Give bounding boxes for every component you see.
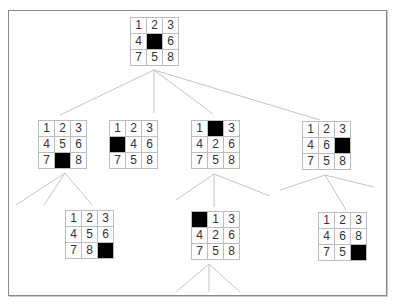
tile: 4 — [319, 229, 335, 245]
tile: 1 — [319, 213, 335, 229]
tile: 4 — [192, 137, 208, 153]
tile: 4 — [131, 34, 147, 50]
edge-c4-g4 — [325, 175, 346, 210]
tile: 7 — [110, 153, 126, 169]
edge-c3-c — [214, 174, 270, 196]
tile: 6 — [224, 228, 240, 244]
tile: 6 — [142, 137, 158, 153]
edge-c3-a — [176, 174, 214, 200]
tile: 8 — [224, 153, 240, 169]
tile: 2 — [208, 137, 224, 153]
tile: 5 — [208, 244, 224, 260]
puzzle-child-1: 12345678 — [38, 120, 87, 169]
tile: 8 — [335, 154, 351, 170]
tile: 1 — [208, 212, 224, 228]
tile: 2 — [82, 211, 98, 227]
tile: 3 — [98, 211, 114, 227]
tile: 7 — [39, 153, 55, 169]
tile: 5 — [335, 245, 351, 261]
puzzle-child-3: 13426758 — [191, 120, 240, 169]
tile: 5 — [55, 137, 71, 153]
tile: 4 — [303, 138, 319, 154]
blank-tile — [192, 212, 208, 228]
blank-tile — [147, 34, 163, 50]
edge-g3-a — [176, 264, 209, 292]
puzzle-grandchild-1: 12345678 — [65, 210, 114, 259]
tile: 6 — [98, 227, 114, 243]
tile: 8 — [163, 50, 179, 66]
tile: 2 — [335, 213, 351, 229]
tile: 4 — [39, 137, 55, 153]
edge-c1-a — [16, 173, 65, 205]
tile: 1 — [66, 211, 82, 227]
tile: 7 — [66, 243, 82, 259]
tile: 7 — [319, 245, 335, 261]
edge-c1-g1 — [65, 173, 92, 205]
edge-c4-c — [325, 175, 374, 187]
tile: 6 — [71, 137, 87, 153]
tile: 6 — [319, 138, 335, 154]
blank-tile — [110, 137, 126, 153]
tile: 7 — [131, 50, 147, 66]
puzzle-grandchild-3: 13426758 — [191, 211, 240, 260]
puzzle-child-4: 12346758 — [302, 121, 351, 170]
edge-root-c1 — [60, 70, 154, 115]
edge-c4-a — [280, 175, 325, 190]
puzzle-child-2: 12346758 — [109, 120, 158, 169]
tile: 5 — [208, 153, 224, 169]
tile: 5 — [82, 227, 98, 243]
edge-c1-b — [44, 173, 65, 205]
tile: 2 — [319, 122, 335, 138]
tile: 2 — [147, 18, 163, 34]
edge-g3-c — [209, 264, 240, 292]
tile: 6 — [224, 137, 240, 153]
tile: 8 — [351, 229, 367, 245]
tile: 4 — [192, 228, 208, 244]
tile: 8 — [224, 244, 240, 260]
tile: 2 — [126, 121, 142, 137]
edge-root-c3 — [154, 70, 213, 114]
tile: 3 — [71, 121, 87, 137]
tile: 7 — [192, 244, 208, 260]
tile: 3 — [224, 121, 240, 137]
tile: 3 — [335, 122, 351, 138]
tile: 1 — [110, 121, 126, 137]
tile: 3 — [351, 213, 367, 229]
puzzle-root: 12346758 — [130, 17, 179, 66]
tile: 3 — [142, 121, 158, 137]
tile: 6 — [335, 229, 351, 245]
tile: 8 — [71, 153, 87, 169]
blank-tile — [55, 153, 71, 169]
tile: 1 — [303, 122, 319, 138]
blank-tile — [351, 245, 367, 261]
tile: 6 — [163, 34, 179, 50]
tile: 3 — [163, 18, 179, 34]
tile: 4 — [66, 227, 82, 243]
blank-tile — [98, 243, 114, 259]
tile: 5 — [147, 50, 163, 66]
tile: 8 — [142, 153, 158, 169]
tile: 5 — [126, 153, 142, 169]
blank-tile — [335, 138, 351, 154]
tile: 7 — [192, 153, 208, 169]
tile: 8 — [82, 243, 98, 259]
tile: 1 — [192, 121, 208, 137]
tile: 2 — [55, 121, 71, 137]
tile: 2 — [208, 228, 224, 244]
tile: 1 — [39, 121, 55, 137]
tile: 4 — [126, 137, 142, 153]
tile: 7 — [303, 154, 319, 170]
edge-root-c4 — [154, 70, 320, 120]
blank-tile — [208, 121, 224, 137]
puzzle-grandchild-4: 12346875 — [318, 212, 367, 261]
tile: 1 — [131, 18, 147, 34]
tile: 3 — [224, 212, 240, 228]
tile: 5 — [319, 154, 335, 170]
